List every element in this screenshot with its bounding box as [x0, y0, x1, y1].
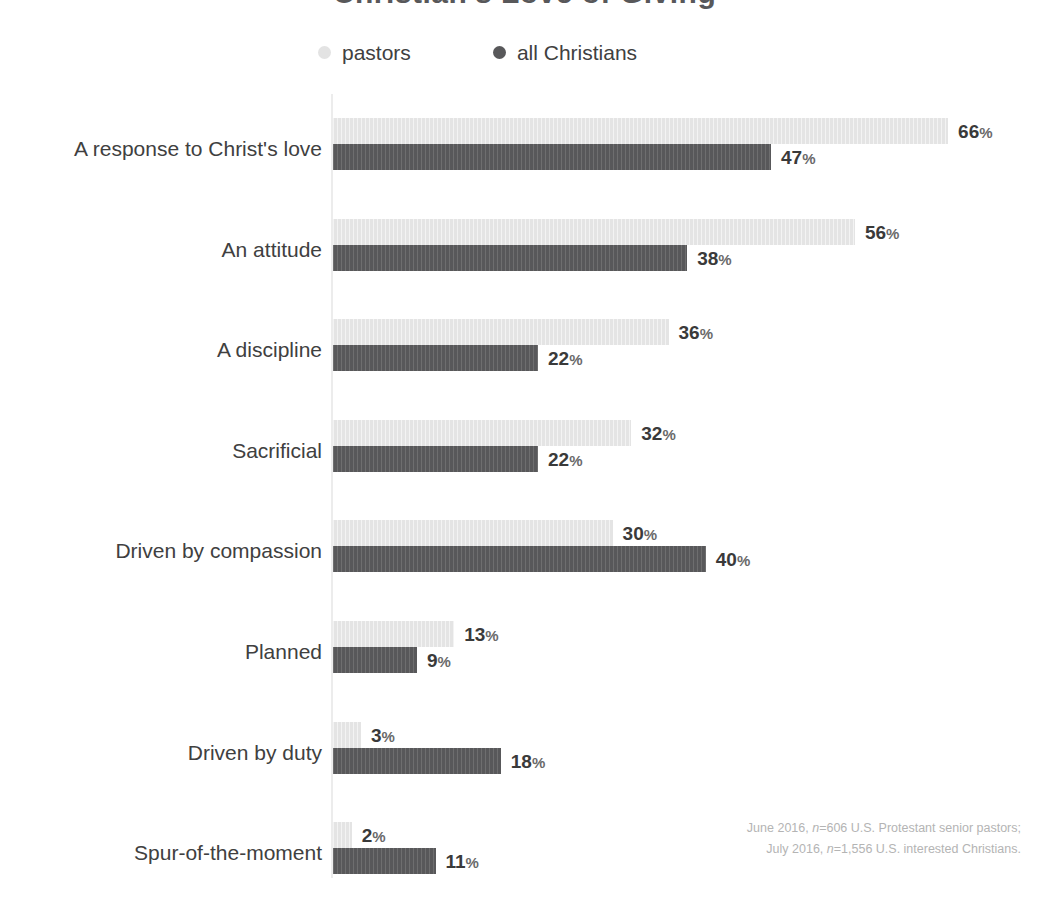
bar-group: 30%40% [333, 503, 1049, 599]
bar-value-percent-sign: % [382, 727, 395, 744]
bar-christians[interactable]: 22% [333, 345, 1049, 371]
bar-value-number: 13 [464, 624, 485, 645]
bar-value-label: 30% [623, 524, 657, 543]
bar-value-number: 36 [679, 322, 700, 343]
bar-value-label: 18% [511, 751, 545, 770]
chart-row: Driven by compassion30%40% [0, 503, 1049, 599]
bar-fill-pastors [333, 822, 352, 848]
bar-pastors[interactable]: 32% [333, 420, 1049, 446]
bar-value-number: 11 [446, 851, 466, 872]
bar-christians[interactable]: 47% [333, 144, 1049, 170]
bar-value-percent-sign: % [700, 325, 713, 342]
bar-fill-pastors [333, 219, 855, 245]
bar-fill-pastors [333, 621, 454, 647]
bar-christians[interactable]: 40% [333, 546, 1049, 572]
category-label: Spur-of-the-moment [134, 841, 322, 866]
bar-value-percent-sign: % [662, 425, 675, 442]
bar-value-number: 56 [865, 221, 886, 242]
bar-value-number: 22 [548, 348, 569, 369]
bar-value-percent-sign: % [485, 627, 498, 644]
bar-pastors[interactable]: 66% [333, 118, 1049, 144]
category-label: A discipline [217, 338, 322, 363]
footnote-line-1-post: =606 U.S. Protestant senior pastors; [819, 821, 1021, 835]
bar-value-percent-sign: % [437, 653, 450, 670]
chart-row: Planned13%9% [0, 604, 1049, 700]
bar-christians[interactable]: 18% [333, 748, 1049, 774]
bar-value-number: 22 [548, 448, 569, 469]
bar-value-percent-sign: % [372, 828, 385, 845]
bar-pastors[interactable]: 56% [333, 219, 1049, 245]
bar-value-label: 2% [362, 826, 386, 845]
bar-value-number: 47 [781, 147, 802, 168]
bar-value-number: 66 [958, 121, 979, 142]
bar-value-number: 18 [511, 750, 532, 771]
bar-fill-christians [333, 144, 771, 170]
bar-fill-christians [333, 647, 417, 673]
category-label: Driven by duty [188, 740, 322, 765]
bar-fill-christians [333, 245, 687, 271]
category-label: Driven by compassion [115, 539, 322, 564]
category-label: A response to Christ's love [74, 136, 322, 161]
chart-row: A response to Christ's love66%47% [0, 101, 1049, 197]
bar-christians[interactable]: 22% [333, 446, 1049, 472]
bar-value-number: 2 [362, 825, 373, 846]
bar-value-label: 22% [548, 349, 582, 368]
bar-pastors[interactable]: 36% [333, 319, 1049, 345]
bar-fill-christians [333, 446, 538, 472]
bar-christians[interactable]: 9% [333, 647, 1049, 673]
bar-value-label: 32% [641, 423, 675, 442]
footnote-line-1: June 2016, n=606 U.S. Protestant senior … [621, 818, 1021, 839]
bar-group: 56%38% [333, 202, 1049, 298]
bar-value-label: 3% [371, 725, 395, 744]
bar-value-label: 38% [697, 248, 731, 267]
bar-pastors[interactable]: 30% [333, 520, 1049, 546]
bar-fill-pastors [333, 118, 948, 144]
bar-value-label: 11% [446, 852, 479, 871]
bar-value-percent-sign: % [466, 854, 479, 871]
bar-fill-pastors [333, 722, 361, 748]
bar-value-percent-sign: % [569, 351, 582, 368]
bar-pastors[interactable]: 13% [333, 621, 1049, 647]
category-label: Planned [245, 639, 322, 664]
bar-value-number: 30 [623, 523, 644, 544]
bar-value-percent-sign: % [886, 224, 899, 241]
bar-value-percent-sign: % [979, 124, 992, 141]
chart-row: An attitude56%38% [0, 202, 1049, 298]
footnote-line-2: July 2016, n=1,556 U.S. interested Chris… [621, 839, 1021, 860]
footnote-line-1-pre: June 2016, [747, 821, 812, 835]
bar-value-number: 3 [371, 724, 382, 745]
chart-row: Sacrificial32%22% [0, 403, 1049, 499]
bar-value-number: 38 [697, 247, 718, 268]
bar-value-percent-sign: % [644, 526, 657, 543]
bar-value-label: 22% [548, 449, 582, 468]
bar-value-percent-sign: % [737, 552, 750, 569]
bar-value-label: 56% [865, 222, 899, 241]
footnote-line-2-n: n [827, 842, 834, 856]
chart-page: Christian's Love of Giving pastors all C… [0, 0, 1049, 911]
bar-value-number: 40 [716, 549, 737, 570]
bar-group: 36%22% [333, 302, 1049, 398]
footnote-line-2-pre: July 2016, [766, 842, 826, 856]
bar-value-label: 13% [464, 625, 498, 644]
bar-value-percent-sign: % [532, 753, 545, 770]
bar-christians[interactable]: 38% [333, 245, 1049, 271]
chart-footnote: June 2016, n=606 U.S. Protestant senior … [621, 818, 1021, 859]
bar-group: 3%18% [333, 705, 1049, 801]
bar-fill-christians [333, 546, 706, 572]
plot-area: A response to Christ's love66%47%An atti… [0, 0, 1049, 911]
bar-group: 13%9% [333, 604, 1049, 700]
bar-group: 32%22% [333, 403, 1049, 499]
bar-fill-pastors [333, 420, 631, 446]
bar-value-percent-sign: % [802, 150, 815, 167]
bar-fill-christians [333, 848, 436, 874]
bar-value-percent-sign: % [569, 451, 582, 468]
bar-value-number: 32 [641, 422, 662, 443]
bar-group: 66%47% [333, 101, 1049, 197]
bar-pastors[interactable]: 3% [333, 722, 1049, 748]
footnote-line-2-post: =1,556 U.S. interested Christians. [834, 842, 1021, 856]
category-label: An attitude [222, 237, 322, 262]
bar-value-label: 40% [716, 550, 750, 569]
category-label: Sacrificial [232, 438, 322, 463]
bar-value-label: 36% [679, 323, 713, 342]
bar-value-label: 9% [427, 651, 451, 670]
